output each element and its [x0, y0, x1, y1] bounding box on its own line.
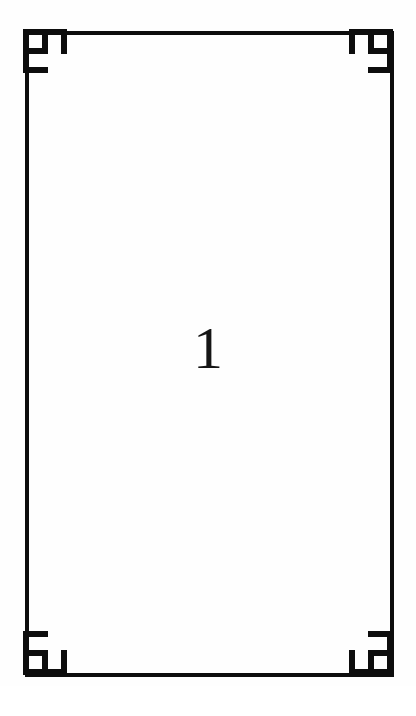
bottom-left-corner-ornament: [23, 631, 67, 675]
top-right-corner-ornament: [349, 29, 393, 73]
scan-edge-margin: [0, 686, 416, 716]
bottom-right-corner-ornament: [349, 631, 393, 675]
document-page: 1: [0, 0, 416, 716]
page-number: 1: [0, 316, 416, 380]
top-left-corner-ornament: [23, 29, 67, 73]
